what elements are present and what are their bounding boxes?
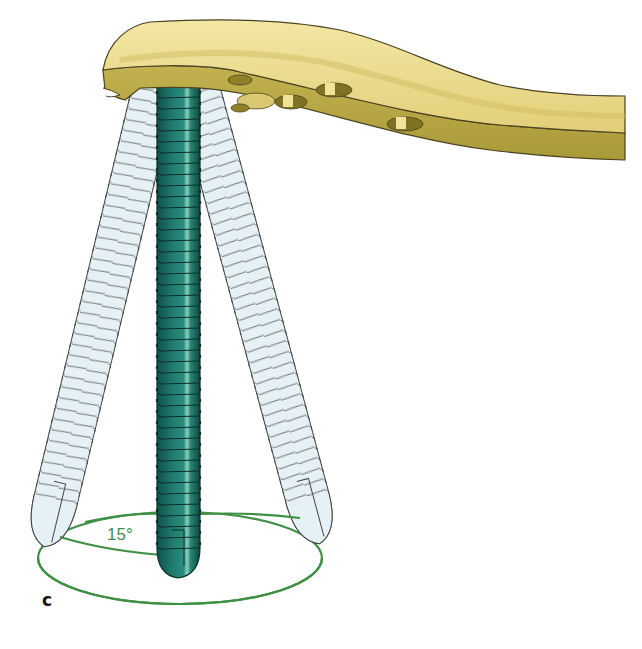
left-angled-screw — [23, 77, 177, 552]
panel-label: c — [42, 590, 52, 610]
angle-label: 15° — [107, 525, 133, 544]
screw-angulation-diagram: 15° c — [0, 0, 642, 649]
central-locking-screw — [157, 80, 200, 578]
